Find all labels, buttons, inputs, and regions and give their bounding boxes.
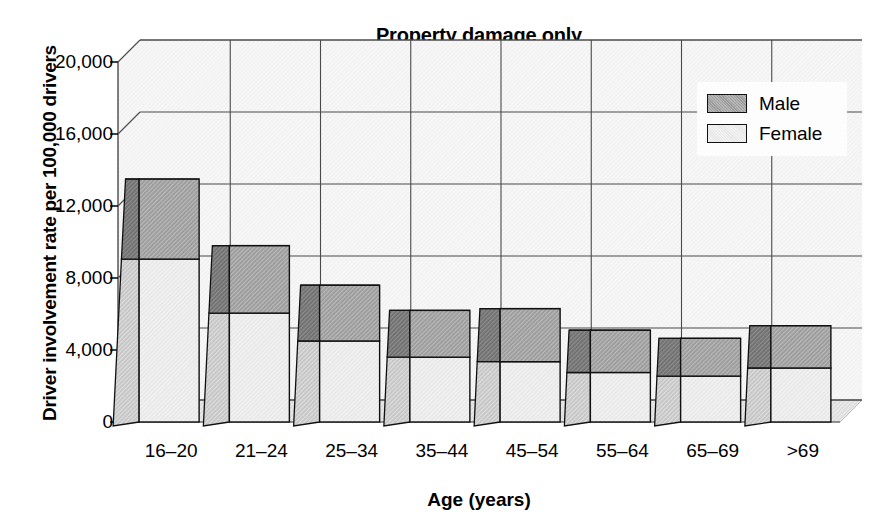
legend: Male Female (697, 82, 847, 156)
bar-45–54 (474, 309, 560, 426)
y-tick-label-16000: 16,000 (3, 124, 113, 143)
x-tick-label-1: 21–24 (235, 440, 288, 462)
legend-label-male: Male (759, 94, 800, 113)
x-tick-label-3: 35–44 (415, 440, 468, 462)
bar-65–69 (655, 338, 741, 426)
chart-container: Property damage only Driver involvement … (0, 0, 884, 528)
x-tick-label-0: 16–20 (145, 440, 198, 462)
legend-item-female: Female (707, 118, 841, 148)
y-tick-label-12000: 12,000 (3, 196, 113, 215)
y-tick-label-4000: 4,000 (3, 340, 113, 359)
legend-label-female: Female (759, 124, 822, 143)
x-tick-label-4: 45–54 (506, 440, 559, 462)
x-tick-label-7: >69 (787, 440, 819, 462)
x-tick-label-2: 25–34 (325, 440, 378, 462)
y-tick-label-8000: 8,000 (3, 268, 113, 287)
bar-21–24 (203, 246, 289, 426)
legend-swatch-male-icon (707, 94, 747, 113)
y-tick-label-20000: 20,000 (3, 52, 113, 71)
bar->69 (745, 326, 831, 426)
x-tick-label-6: 65–69 (686, 440, 739, 462)
bar-55–64 (564, 330, 650, 426)
bar-25–34 (294, 285, 380, 426)
legend-item-male: Male (707, 88, 841, 118)
bar-35–44 (384, 310, 470, 426)
y-tick-label-0: 0 (3, 412, 113, 431)
x-tick-label-5: 55–64 (596, 440, 649, 462)
legend-swatch-female-icon (707, 124, 747, 143)
x-axis-tick-labels: 16–2021–2425–3435–4445–5455–6465–69>69 (0, 440, 884, 470)
bar-16–20 (113, 179, 199, 426)
